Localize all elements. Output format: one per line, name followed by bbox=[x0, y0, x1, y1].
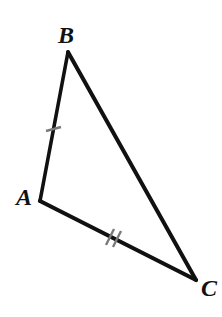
geometry-figure: A B C bbox=[0, 0, 222, 317]
triangle-diagram: A B C bbox=[0, 0, 222, 317]
vertex-label-a: A bbox=[14, 184, 32, 210]
vertex-label-b: B bbox=[57, 22, 74, 48]
vertex-label-c: C bbox=[201, 275, 218, 301]
